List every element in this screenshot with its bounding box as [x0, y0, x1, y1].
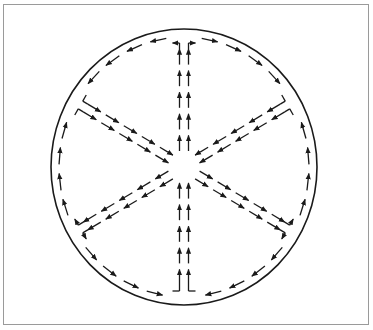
rim-arrow	[63, 199, 68, 215]
rim-arrow	[301, 122, 306, 138]
spoke-arrow	[218, 144, 231, 152]
rim-arrow	[252, 266, 265, 276]
rim-arrow	[59, 174, 61, 191]
spoke-arrow	[272, 214, 285, 222]
spoke-arrow	[101, 204, 114, 212]
spoke-top	[173, 43, 196, 151]
rim-arrow	[307, 174, 309, 191]
spoke-elbow-turn	[282, 95, 286, 101]
spoke-arrow	[218, 182, 231, 190]
spoke-arrow	[124, 200, 137, 208]
spoke-elbow-turn	[290, 109, 294, 115]
spoke-arrow	[231, 200, 244, 208]
spoke-elbow	[285, 222, 290, 225]
spoke-elbow-turn	[83, 95, 87, 101]
spoke-elbow-turn	[83, 233, 87, 239]
spoke-arrow	[267, 222, 280, 230]
spoke-arrow	[124, 126, 137, 134]
spoke-arrow	[195, 179, 208, 187]
spoke-arrow	[137, 182, 150, 190]
spoke-elbow	[83, 230, 88, 233]
spoke-arrow	[155, 155, 168, 163]
rim-arrow	[269, 71, 280, 83]
rim-arrow	[124, 281, 139, 288]
spoke-arrow	[249, 211, 262, 219]
spoke-arrow	[119, 193, 132, 201]
spoke-arrow	[254, 204, 267, 212]
spoke-elbow-turn	[75, 109, 79, 115]
spoke-arrow	[101, 123, 114, 131]
spoke-bottom	[173, 183, 196, 291]
spoke-arrow	[231, 126, 244, 134]
spoke-arrow	[88, 222, 101, 230]
rim-arrow	[88, 71, 99, 83]
circle-boundary	[51, 29, 317, 305]
rim-arrows-group	[59, 38, 309, 295]
spoke-arrow	[200, 171, 213, 179]
spoke-arrow	[142, 137, 155, 145]
spoke-elbow	[285, 109, 290, 112]
rim-arrow	[103, 266, 116, 276]
spoke-arrow	[160, 179, 173, 187]
spoke-elbow	[280, 230, 285, 233]
rim-arrow	[62, 122, 67, 138]
rim-arrow	[127, 45, 142, 52]
spoke-lower-right	[195, 171, 293, 239]
rim-arrow	[230, 281, 245, 288]
spoke-arrow	[142, 190, 155, 198]
spoke-arrow	[160, 147, 173, 155]
spoke-arrow	[83, 214, 96, 222]
spoke-upper-right	[195, 95, 293, 163]
rim-arrow	[226, 45, 241, 52]
spoke-arrow	[249, 115, 262, 123]
spoke-arrow	[88, 104, 101, 112]
spoke-arrow	[213, 190, 226, 198]
spoke-elbow	[280, 101, 285, 104]
spoke-arrow	[83, 112, 96, 120]
spoke-arrow	[236, 133, 249, 141]
spoke-arrow	[254, 123, 267, 131]
spoke-arrow	[200, 155, 213, 163]
rim-arrow	[271, 247, 282, 260]
spoke-arrow	[272, 112, 285, 120]
spoke-arrow	[267, 104, 280, 112]
spoke-arrow	[119, 133, 132, 141]
rim-arrow	[202, 38, 218, 41]
rim-arrow	[249, 56, 262, 66]
spoke-arrow	[213, 137, 226, 145]
rim-arrow	[59, 148, 60, 165]
spoke-arrow	[155, 171, 168, 179]
rim-flow-lower-left-to-upper-left	[59, 122, 68, 215]
rim-arrow	[106, 56, 119, 66]
rim-arrow	[205, 291, 221, 295]
spoke-lower-left	[75, 171, 173, 239]
rim-arrow	[150, 38, 166, 41]
spoke-elbow	[78, 222, 83, 225]
spoke-elbow-turn	[75, 219, 79, 225]
rim-arrow	[86, 247, 97, 260]
spoke-upper-left	[75, 95, 173, 163]
rim-arrow	[300, 199, 305, 215]
spokes-group	[75, 43, 293, 291]
spoke-elbow	[78, 109, 83, 112]
spoke-arrow	[106, 211, 119, 219]
rim-arrow	[308, 148, 309, 165]
radial-flow-diagram	[0, 0, 373, 330]
rim-arrow	[147, 291, 163, 295]
spoke-arrow	[195, 147, 208, 155]
spoke-arrow	[137, 144, 150, 152]
spoke-elbow-turn	[290, 219, 294, 225]
spoke-arrow	[106, 115, 119, 123]
spoke-arrow	[236, 193, 249, 201]
spoke-elbow-turn	[282, 233, 286, 239]
rim-flow-lower-right-to-upper-right	[300, 122, 309, 215]
spoke-elbow	[83, 101, 88, 104]
